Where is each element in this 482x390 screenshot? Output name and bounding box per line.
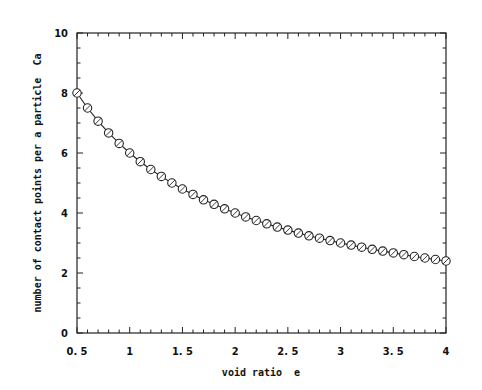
x-tick-label: 0. 5 [67, 345, 88, 358]
chart: 0. 511. 522. 533. 540246810 void ratio e… [0, 0, 482, 390]
y-tick-label: 8 [61, 87, 68, 100]
data-markers [73, 89, 450, 265]
y-tick-label: 0 [61, 327, 68, 340]
x-tick-label: 3 [337, 345, 344, 358]
x-tick-label: 4 [443, 345, 450, 358]
tick-labels: 0. 511. 522. 533. 540246810 [54, 27, 449, 358]
y-axis-label: number of contact points per a particle … [32, 54, 43, 313]
minor-ticks [77, 33, 446, 333]
x-tick-label: 1. 5 [172, 345, 193, 358]
x-tick-label: 1 [126, 345, 133, 358]
x-tick-label: 2. 5 [277, 345, 298, 358]
series-line [77, 93, 446, 261]
y-tick-label: 10 [54, 27, 68, 40]
x-axis-label: void ratio e [222, 367, 300, 378]
x-tick-label: 2 [232, 345, 239, 358]
y-tick-label: 2 [61, 267, 68, 280]
plot-frame [77, 33, 446, 333]
y-tick-label: 6 [61, 147, 68, 160]
y-tick-label: 4 [61, 207, 68, 220]
x-tick-label: 3. 5 [383, 345, 404, 358]
